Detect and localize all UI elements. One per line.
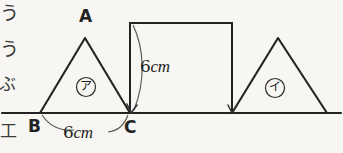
vertex-label-c: C [124, 119, 136, 136]
triangle-abc-shape [40, 38, 130, 113]
dimension-label-base-bc: 6cm [63, 124, 93, 141]
region-tag-i-label: イ [266, 79, 285, 98]
dimension-unit-base-bc: cm [74, 123, 93, 142]
geometry-figure [0, 0, 343, 153]
region-tag-a-label: ア [77, 78, 96, 97]
triangle-right-shape [232, 38, 327, 113]
vertex-label-b: B [28, 118, 41, 135]
dimension-value-base-bc: 6 [63, 122, 74, 142]
dimension-unit-square-side: cm [151, 57, 170, 76]
dimension-value-square-side: 6 [140, 56, 151, 76]
dimension-label-square-side: 6cm [140, 58, 170, 75]
worksheet-figure-page: う う ぶ 工 ア イ A B C 6cm 6cm [0, 0, 343, 153]
vertex-label-a: A [79, 8, 92, 25]
